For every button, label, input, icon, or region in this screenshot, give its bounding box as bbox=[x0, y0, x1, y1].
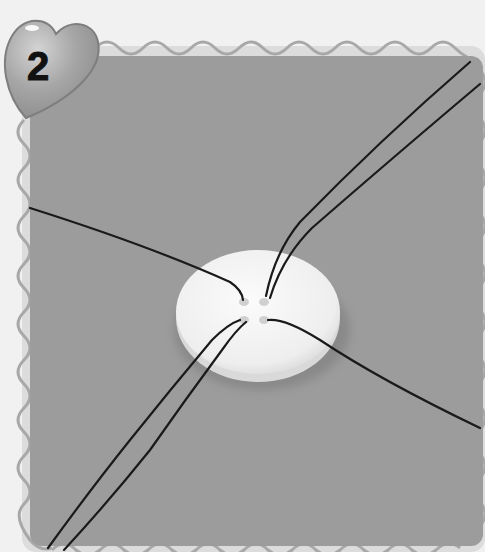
step-illustration: 2 bbox=[0, 0, 485, 552]
button-hole bbox=[259, 298, 269, 306]
step-number: 2 bbox=[27, 44, 49, 88]
